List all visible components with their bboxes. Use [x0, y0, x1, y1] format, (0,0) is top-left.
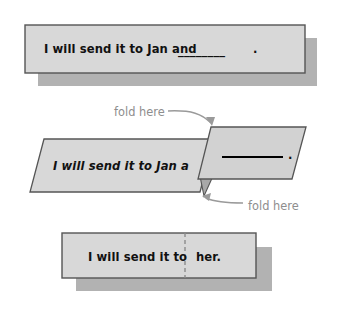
step-3-right-text: her.	[196, 250, 221, 264]
step-1-sentence: I will send it to Jan and	[44, 42, 197, 56]
fold-here-arrowhead-top-icon	[206, 117, 215, 126]
fold-here-arrow-top-icon	[168, 111, 211, 123]
fold-here-label-bottom: fold here	[248, 199, 299, 213]
step-1-period: .	[253, 42, 258, 56]
step-2-flap-period: .	[288, 148, 293, 162]
fold-here-arrow-bottom-icon	[206, 198, 243, 203]
step-1-unfolded: I will send it to Jan and ________ .	[25, 25, 317, 86]
figure-canvas: I will send it to Jan and ________ . I w…	[0, 0, 337, 317]
fold-here-label-top: fold here	[114, 105, 165, 119]
step-3-left-text: I will send it to	[88, 250, 187, 264]
step-2-folding: I will send it to Jan a . fold here fold…	[30, 105, 306, 213]
step-2-left-panel-text: I will send it to Jan a	[53, 159, 189, 173]
step-3-folded: I will send it to her.	[62, 233, 272, 291]
figure-fold-a-sentence: I will send it to Jan and ________ . I w…	[0, 0, 337, 317]
step-1-blank: ________	[178, 43, 225, 58]
